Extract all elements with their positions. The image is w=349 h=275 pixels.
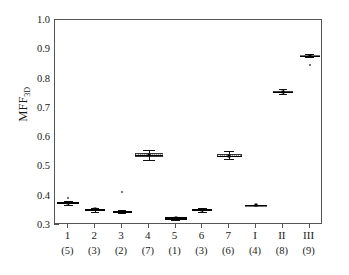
whisker-cap <box>305 57 313 58</box>
y-tick-major <box>54 224 59 225</box>
x-sample-count-label: (2) <box>115 245 127 256</box>
boxplot-figure: MFF3D 1.00.90.80.70.60.50.40.3 1(5)2(3)3… <box>0 0 349 275</box>
x-tick-label: 5 <box>172 229 178 241</box>
outlier-point <box>309 64 311 66</box>
x-sample-count-label: (3) <box>195 245 207 256</box>
y-tick-label: 0.8 <box>37 72 50 83</box>
x-sample-count-label: (3) <box>88 245 100 256</box>
x-tick-label: I <box>253 229 257 241</box>
y-tick-label: 0.4 <box>37 189 50 200</box>
x-tick <box>121 224 122 228</box>
x-tick <box>175 224 176 228</box>
box-plot <box>55 20 321 223</box>
x-tick-label: 6 <box>199 229 205 241</box>
y-tick-label: 0.9 <box>37 43 50 54</box>
x-tick-label: 1 <box>65 229 71 241</box>
y-axis-label-subscript: 3D <box>23 87 32 97</box>
y-tick-label: 1.0 <box>37 14 50 25</box>
x-tick <box>255 224 256 228</box>
x-tick-label: 7 <box>225 229 231 241</box>
x-tick <box>309 224 310 228</box>
x-tick <box>148 224 149 228</box>
x-sample-count-label: (1) <box>168 245 180 256</box>
x-sample-count-label: (5) <box>61 245 73 256</box>
x-tick-label: 2 <box>91 229 97 241</box>
x-tick-label: 3 <box>118 229 124 241</box>
x-tick <box>228 224 229 228</box>
x-tick <box>94 224 95 228</box>
x-tick-label: II <box>278 229 285 241</box>
plot-area <box>54 19 322 224</box>
x-sample-count-label: (6) <box>222 245 234 256</box>
x-tick <box>201 224 202 228</box>
x-tick-label: III <box>303 229 314 241</box>
mean-marker <box>308 54 311 57</box>
x-tick-label: 4 <box>145 229 151 241</box>
y-axis-label-text: MFF <box>16 97 30 122</box>
y-tick-label: 0.6 <box>37 131 50 142</box>
x-tick <box>282 224 283 228</box>
x-tick <box>67 224 68 228</box>
x-sample-count-label: (4) <box>249 245 261 256</box>
y-tick-label: 0.5 <box>37 160 50 171</box>
x-sample-count-label: (8) <box>276 245 288 256</box>
x-sample-count-label: (7) <box>142 245 154 256</box>
y-tick-label: 0.7 <box>37 101 50 112</box>
x-sample-count-label: (9) <box>302 245 314 256</box>
y-tick-label: 0.3 <box>37 219 50 230</box>
